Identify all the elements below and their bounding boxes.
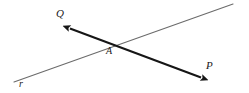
figure-canvas <box>0 0 249 93</box>
line-pq <box>70 29 201 78</box>
point-label-a: A <box>106 46 112 56</box>
point-label-q: Q <box>56 8 64 19</box>
line-label-r: r <box>19 79 23 89</box>
point-label-p: P <box>206 60 213 71</box>
geometry-figure: Q P A r <box>0 0 249 93</box>
line-r <box>14 4 233 82</box>
